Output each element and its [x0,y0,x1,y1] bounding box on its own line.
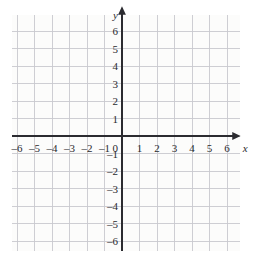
y-tick-label: 2 [94,96,118,107]
y-tick-label: 3 [94,79,118,90]
coordinate-grid-figure: –6–5–4–3–2–1123456 –6–5–4–3–2–1123456 0 … [0,0,253,271]
y-tick-label: –4 [94,201,118,212]
y-tick-label: 4 [94,61,118,72]
y-tick-label: –5 [94,219,118,230]
y-tick-label: 6 [94,26,118,37]
y-tick-label: 5 [94,44,118,55]
x-tick-label: 6 [216,143,238,154]
y-tick-label: –3 [94,184,118,195]
y-tick-label: 1 [94,114,118,125]
origin-label: 0 [94,143,118,154]
y-axis-label: y [113,10,118,21]
y-tick-label: –2 [94,166,118,177]
axes [0,0,253,271]
y-tick-label: –6 [94,236,118,247]
x-axis-label: x [243,143,248,154]
